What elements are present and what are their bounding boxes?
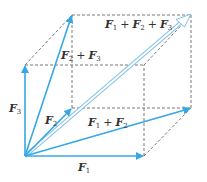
label-F2: F2 — [44, 114, 57, 128]
label-F1: F1 — [77, 161, 90, 175]
resultant-arrow-F1-F2-F3 — [25, 14, 191, 156]
label-F1-plus-F2: F1+F2 — [87, 116, 128, 130]
label-F1-plus-F2-plus-F3: F1+F2+F3 — [104, 18, 172, 32]
label-F3: F3 — [8, 102, 21, 116]
vector-parallelepiped-diagram: F1 F3 F2 F1+F2 F2+F3 F1+F2+F3 — [0, 0, 207, 182]
label-F2-plus-F3: F2+F3 — [60, 49, 101, 63]
